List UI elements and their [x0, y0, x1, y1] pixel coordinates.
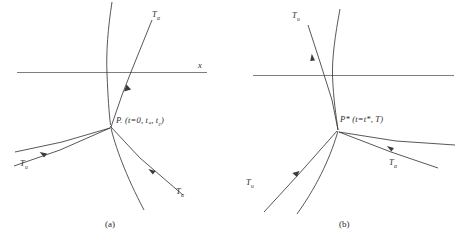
point-args: (t=t*, T) — [352, 114, 383, 124]
curve-alpha-upper-bent — [107, 2, 112, 125]
label-T-u-lower-left: Tu — [246, 177, 254, 189]
label-T-alpha-lower-right: Tα — [176, 186, 184, 198]
curve-u-up-right — [264, 131, 337, 212]
curve-u-lower-continuation — [297, 131, 338, 214]
point-args-close: ) — [161, 115, 164, 125]
label-T-u-lower-left: Tu — [20, 158, 28, 170]
label-T-u-upper-left: Tu — [292, 10, 300, 22]
arrow-alpha-down-right — [148, 169, 155, 175]
label-T-alpha-upper: Tα — [152, 9, 160, 21]
label-sub: α — [181, 192, 184, 198]
curve-u-down-left — [308, 25, 338, 130]
label-sub: u — [297, 16, 300, 22]
point-name: P* — [340, 114, 350, 124]
point-args-open: (t=0, t — [125, 115, 148, 125]
point-label-P-b: P* (t=t*, T) — [340, 114, 383, 124]
label-sub: α — [394, 163, 397, 169]
label-sub: u — [251, 183, 254, 189]
label-T-alpha-lower-right: Tα — [389, 157, 397, 169]
curve-u-left-upper — [15, 128, 110, 152]
caption-a: (a) — [105, 219, 115, 229]
point-dot: . — [120, 115, 122, 125]
label-sub: u — [25, 164, 28, 170]
panel-a: x Tα Tu Tα P. (t=0, t*, tc) (a) — [0, 0, 236, 244]
caption-b: (b) — [339, 219, 350, 229]
curve-alpha-up-right — [111, 20, 152, 127]
label-sub: α — [157, 15, 160, 21]
point-label-P-a: P. (t=0, t*, tc) — [116, 115, 164, 127]
x-axis-label: x — [198, 60, 202, 70]
curve-alpha-lower-continuation — [111, 126, 145, 210]
curve-u-left-lower — [14, 128, 110, 166]
panel-b: Tu Tu Tα P* (t=t*, T) (b) — [236, 0, 472, 244]
figure-container: x Tα Tu Tα P. (t=0, t*, tc) (a) — [0, 0, 472, 244]
curve-u-upper-bent — [332, 9, 340, 130]
arrow-u-down — [310, 54, 315, 61]
